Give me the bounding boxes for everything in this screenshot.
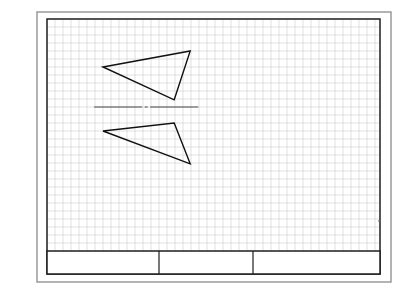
- title-block: [47, 251, 380, 274]
- drawing-sheet: [0, 0, 413, 298]
